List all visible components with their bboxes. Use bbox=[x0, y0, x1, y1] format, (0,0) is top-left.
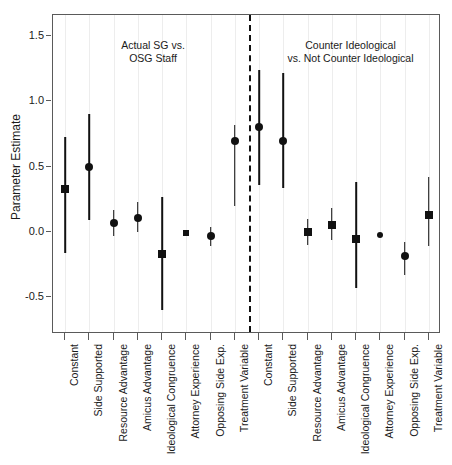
x-axis-tick-label: Attorney Experience bbox=[189, 344, 201, 439]
y-axis-tick-label: 1.0 bbox=[0, 94, 44, 106]
x-axis-tick-mark bbox=[185, 333, 186, 340]
data-point-square bbox=[158, 250, 166, 258]
data-point-circle bbox=[279, 137, 287, 145]
x-axis-tick-label: Amicus Advantage bbox=[335, 344, 347, 431]
x-axis-tick-label: Ideological Congruence bbox=[359, 344, 371, 454]
y-axis-tick-label: -0.5 bbox=[0, 290, 44, 302]
x-axis-tick-label: Ideological Congruence bbox=[165, 344, 177, 454]
data-point-square bbox=[328, 221, 336, 229]
x-axis-tick-mark bbox=[161, 333, 162, 340]
x-axis-tick-mark bbox=[428, 333, 429, 340]
y-axis-tick-mark bbox=[46, 35, 51, 36]
data-point-square bbox=[304, 228, 312, 236]
x-axis-tick-mark bbox=[282, 333, 283, 340]
y-axis-tick-mark bbox=[46, 166, 51, 167]
data-point-circle bbox=[134, 214, 142, 222]
x-axis-tick-mark bbox=[64, 333, 65, 340]
x-axis-tick-mark bbox=[331, 333, 332, 340]
data-point-circle bbox=[401, 252, 409, 260]
x-axis-tick-label: Amicus Advantage bbox=[141, 344, 153, 431]
y-axis-tick-mark bbox=[46, 231, 51, 232]
x-axis-tick-label: Treatment Variable bbox=[238, 344, 250, 432]
data-point-square bbox=[183, 230, 189, 236]
x-axis-tick-label: Attorney Experience bbox=[383, 344, 395, 439]
data-point-circle bbox=[207, 232, 215, 240]
data-point-square bbox=[425, 211, 433, 219]
x-axis-tick-mark bbox=[355, 333, 356, 340]
x-axis-tick-label: Constant bbox=[262, 344, 274, 386]
x-axis-tick-label: Resource Advantage bbox=[117, 344, 129, 441]
x-axis-tick-mark bbox=[88, 333, 89, 340]
data-point-square bbox=[352, 235, 360, 243]
x-axis-tick-label: Side Supported bbox=[92, 344, 104, 416]
data-point-circle bbox=[231, 137, 239, 145]
x-axis-tick-label: Opposing Side Exp. bbox=[408, 344, 420, 437]
data-point-circle bbox=[110, 219, 118, 227]
x-axis-tick-mark bbox=[210, 333, 211, 340]
x-axis-tick-mark bbox=[307, 333, 308, 340]
x-axis-tick-label: Opposing Side Exp. bbox=[214, 344, 226, 437]
plot-area: Actual SG vs.OSG Staff Counter Ideologic… bbox=[52, 14, 440, 333]
data-point-square bbox=[61, 185, 69, 193]
x-axis-tick-mark bbox=[258, 333, 259, 340]
x-axis-tick-mark bbox=[113, 333, 114, 340]
x-axis-tick-label: Resource Advantage bbox=[311, 344, 323, 441]
x-axis-tick-mark bbox=[379, 333, 380, 340]
error-bar bbox=[283, 73, 285, 188]
x-axis-tick-mark bbox=[234, 333, 235, 340]
y-axis-tick-mark bbox=[46, 100, 51, 101]
y-axis-tick-label: 1.5 bbox=[0, 29, 44, 41]
error-bar bbox=[64, 137, 66, 253]
data-point-circle bbox=[85, 163, 93, 171]
x-axis-tick-label: Side Supported bbox=[286, 344, 298, 416]
y-axis-tick-label: 0.0 bbox=[0, 225, 44, 237]
y-axis-tick-label: 0.5 bbox=[0, 160, 44, 172]
x-axis-tick-mark bbox=[404, 333, 405, 340]
x-axis-tick-mark bbox=[137, 333, 138, 340]
x-axis-tick-label: Constant bbox=[68, 344, 80, 386]
x-axis-tick-label: Treatment Variable bbox=[432, 344, 444, 432]
data-point-circle bbox=[377, 232, 383, 238]
data-point-circle bbox=[255, 123, 263, 131]
panel-divider bbox=[249, 15, 251, 332]
panel-title-left: Actual SG vs.OSG Staff bbox=[93, 39, 213, 65]
panel-title-right: Counter Ideologicalvs. Not Counter Ideol… bbox=[268, 39, 433, 65]
y-axis-tick-mark bbox=[46, 296, 51, 297]
chart-container: Parameter Estimate 1.51.00.50.0-0.5 Actu… bbox=[0, 0, 452, 465]
